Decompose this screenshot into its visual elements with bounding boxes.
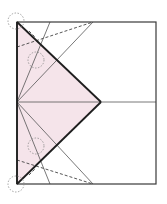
origami-diagram (0, 0, 167, 204)
